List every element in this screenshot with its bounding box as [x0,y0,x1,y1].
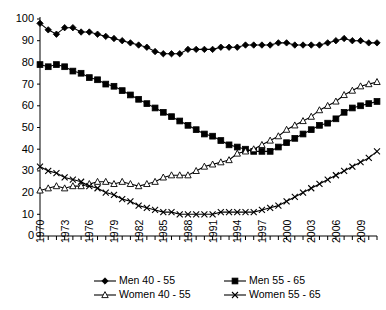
data-point-marker [325,120,331,126]
data-point-marker [102,278,108,284]
data-point-marker [226,157,232,163]
data-series [37,20,380,57]
data-point-marker [86,75,92,81]
data-point-marker [210,133,216,139]
data-point-marker [128,92,134,98]
data-point-marker [242,42,248,48]
x-axis-tick-label: 1985 [157,219,169,243]
data-point-marker [94,31,100,37]
data-point-marker [275,40,281,46]
data-point-marker [259,42,265,48]
data-point-marker [349,38,355,44]
data-point-marker [259,148,265,154]
data-point-marker [308,42,314,48]
data-point-marker [251,42,257,48]
data-point-marker [232,278,238,284]
data-point-marker [317,122,323,128]
data-point-marker [308,127,314,133]
data-point-marker [300,118,306,124]
data-point-marker [234,144,240,150]
data-point-marker [349,105,355,111]
data-point-marker [86,29,92,35]
data-point-marker [374,79,380,85]
data-point-marker [275,144,281,150]
data-point-marker [135,42,141,48]
data-point-marker [292,135,298,141]
data-point-marker [193,127,199,133]
y-axis-tick-label: 80 [22,56,34,68]
x-axis-tick-label: 2003 [305,219,317,243]
x-axis-tick-label: 1970 [34,219,46,243]
data-point-marker [160,51,166,57]
data-point-marker [45,64,51,70]
data-point-marker [316,42,322,48]
data-point-marker [152,105,158,111]
x-axis-tick-label: 1994 [231,219,243,243]
data-point-marker [144,44,150,50]
x-axis-tick-label: 1973 [59,219,71,243]
data-point-marker [119,38,125,44]
y-axis-tick-label: 20 [22,186,34,198]
data-point-marker [284,140,290,146]
legend-item: Women 55 - 65 [224,288,321,300]
data-point-marker [201,46,207,52]
data-point-marker [111,35,117,41]
legend-label: Women 40 - 55 [119,288,191,300]
data-point-marker [78,70,84,76]
data-point-marker [374,99,380,105]
x-axis-tick-label: 1991 [207,219,219,243]
data-point-marker [366,101,372,107]
data-point-marker [218,44,224,50]
x-axis-tick-label: 1979 [108,219,120,243]
data-point-marker [283,126,289,132]
data-point-marker [177,118,183,124]
line-chart: 0102030405060708090100 19701973197619791… [0,0,386,310]
data-point-marker [357,38,363,44]
data-point-marker [103,81,109,87]
data-point-marker [37,62,43,68]
data-point-marker [283,40,289,46]
data-point-marker [275,133,281,139]
data-point-marker [152,48,158,54]
data-point-marker [136,96,142,102]
data-point-marker [144,101,150,107]
data-point-marker [292,122,298,128]
legend-item: Men 40 - 55 [94,274,175,286]
series-line-2 [40,82,377,190]
y-axis: 0102030405060708090100 [16,12,40,241]
y-axis-tick-label: 40 [22,143,34,155]
y-axis-tick-label: 90 [22,34,34,46]
data-point-marker [300,131,306,137]
legend-item: Women 40 - 55 [94,288,191,300]
series-line-0 [40,23,377,53]
data-point-marker [341,109,347,115]
data-point-marker [119,88,125,94]
x-axis: 1970197319761979198219851988199119941997… [34,219,377,243]
data-point-marker [267,137,273,143]
data-point-marker [168,51,174,57]
y-axis-tick-label: 60 [22,99,34,111]
data-point-marker [70,68,76,74]
legend-label: Men 40 - 55 [119,274,175,286]
x-axis-tick-label: 2006 [330,219,342,243]
legend-item: Men 55 - 65 [224,274,305,286]
data-point-marker [333,38,339,44]
data-point-marker [300,42,306,48]
data-point-marker [119,178,125,184]
data-point-marker [341,92,347,98]
data-point-marker [333,98,339,104]
data-point-marker [185,122,191,128]
legend-label: Women 55 - 65 [249,288,321,300]
data-point-marker [185,46,191,52]
data-point-marker [111,83,117,89]
data-point-marker [169,114,175,120]
data-point-marker [54,62,60,68]
data-point-marker [127,40,133,46]
chart-legend: Men 40 - 55Men 55 - 65Women 40 - 55Women… [94,274,321,300]
data-point-marker [70,24,76,30]
data-point-marker [374,40,380,46]
x-axis-tick-label: 1982 [133,219,145,243]
data-point-marker [177,51,183,57]
data-point-marker [95,77,101,83]
data-point-marker [316,107,322,113]
